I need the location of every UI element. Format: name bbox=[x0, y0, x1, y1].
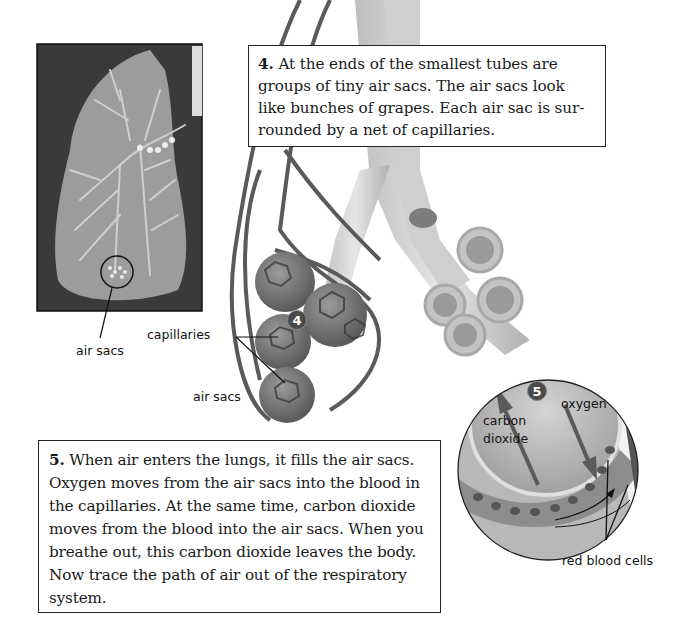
step-5-badge: 5 bbox=[527, 381, 547, 401]
label-capillaries: capillaries bbox=[147, 327, 210, 342]
label-oxygen: oxygen bbox=[561, 396, 607, 411]
step-4-text: At the ends of the smallest tubes are gr… bbox=[258, 55, 584, 139]
step-4-caption: 4. At the ends of the smallest tubes are… bbox=[248, 45, 606, 147]
step-5-caption: 5. When air enters the lungs, it fills t… bbox=[38, 440, 441, 613]
label-dioxide: dioxide bbox=[483, 431, 528, 446]
label-red-blood-cells: red blood cells bbox=[562, 553, 653, 568]
step-4-number: 4. bbox=[258, 55, 274, 73]
label-carbon: carbon bbox=[483, 413, 526, 428]
lung-inset bbox=[37, 44, 202, 338]
step-5-text: When air enters the lungs, it fills the … bbox=[49, 451, 424, 607]
air-sac-detail bbox=[420, 340, 650, 560]
step-4-badge: 4 bbox=[287, 310, 307, 330]
step-5-number: 5. bbox=[49, 451, 65, 469]
label-air-sacs: air sacs bbox=[193, 389, 241, 404]
label-lung-air-sacs: air sacs bbox=[76, 343, 124, 358]
